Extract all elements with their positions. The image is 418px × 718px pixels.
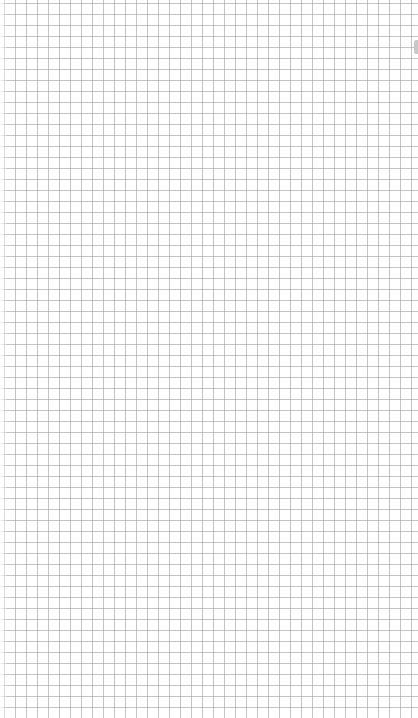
grid-paper-canvas: Grid paper (0, 0, 418, 718)
left-edge-fade (0, 0, 8, 718)
scrollbar-thumb[interactable] (414, 40, 418, 54)
